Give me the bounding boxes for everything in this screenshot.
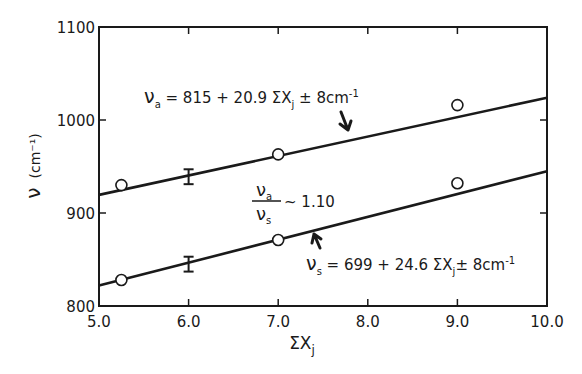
ratio-denominator: νs (256, 203, 271, 226)
chart: 5.06.07.08.09.010.080090010001100 ν (cm⁻… (0, 0, 582, 374)
ratio-value: ~ 1.10 (284, 193, 335, 211)
y-tick-label: 1100 (57, 19, 95, 37)
data-point (452, 178, 463, 189)
ratio-annotation: νa νs ~ 1.10 (252, 179, 335, 226)
axis-ticks: 5.06.07.08.09.010.080090010001100 (57, 19, 564, 331)
data-point (116, 180, 127, 191)
x-tick-label: 7.0 (266, 313, 290, 331)
x-tick-label: 9.0 (445, 313, 469, 331)
arrow-icon (340, 112, 351, 130)
x-tick-label: 6.0 (177, 313, 201, 331)
y-axis-label: ν (cm⁻¹) (21, 133, 45, 199)
data-point (452, 100, 463, 111)
data-point (116, 274, 127, 285)
y-tick-label: 900 (66, 205, 95, 223)
ratio-numerator: νa (256, 179, 272, 202)
y-tick-label: 800 (66, 298, 95, 316)
x-tick-label: 10.0 (530, 313, 563, 331)
data-point (273, 234, 284, 245)
fit-line-nu-a (99, 98, 547, 195)
y-tick-label: 1000 (57, 112, 95, 130)
data-point (273, 149, 284, 160)
x-tick-label: 8.0 (356, 313, 380, 331)
equation-nu-a: νa = 815 + 20.9 ΣXj ± 8cm-1 (144, 85, 359, 110)
equation-nu-s: νs = 699 + 24.6 ΣXj± 8cm-1 (306, 252, 515, 277)
arrow-icon (312, 234, 321, 248)
x-axis-label: ΣXj (289, 333, 315, 357)
